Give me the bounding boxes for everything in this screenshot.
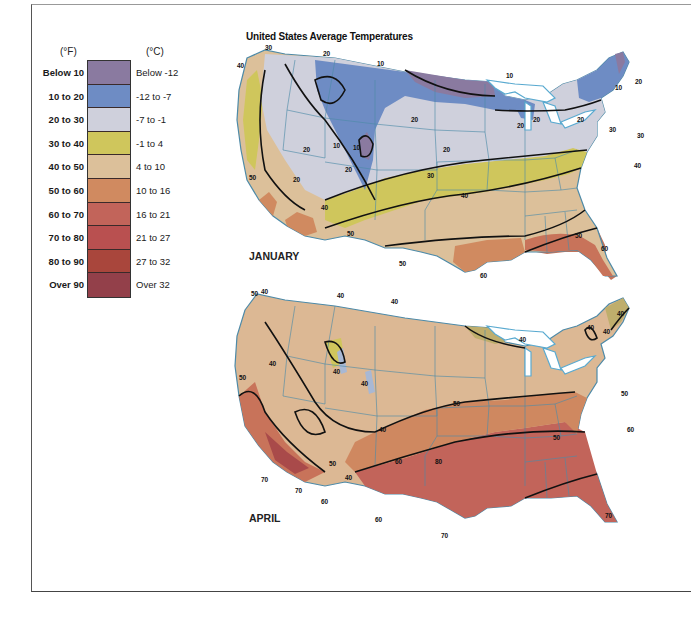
svg-text:80: 80 (435, 458, 443, 465)
svg-text:10: 10 (377, 60, 385, 67)
svg-text:20: 20 (443, 146, 451, 153)
svg-text:40: 40 (379, 426, 387, 433)
legend-fahrenheit-label: 70 to 80 (49, 232, 84, 243)
svg-text:40: 40 (461, 192, 469, 199)
svg-text:20: 20 (517, 122, 525, 129)
legend-celsius-label: 4 to 10 (136, 161, 165, 172)
april-label: APRIL (249, 512, 281, 524)
svg-text:40: 40 (391, 298, 399, 305)
svg-text:40: 40 (321, 204, 329, 211)
legend-fahrenheit-label: 30 to 40 (49, 138, 84, 149)
svg-text:30: 30 (427, 172, 435, 179)
january-map: 30 20 10 40 10 20 20 20 10 20 30 30 20 1… (225, 40, 675, 280)
legend-fahrenheit-label: 50 to 60 (49, 185, 84, 196)
svg-text:50: 50 (251, 290, 259, 297)
svg-text:40: 40 (617, 310, 625, 317)
svg-text:40: 40 (519, 336, 527, 343)
legend-fahrenheit-label: 10 to 20 (49, 91, 84, 102)
legend-color-bar (87, 60, 131, 298)
svg-text:40: 40 (603, 328, 611, 335)
svg-text:50: 50 (249, 174, 257, 181)
legend-swatch (88, 203, 130, 227)
svg-text:50: 50 (399, 260, 407, 267)
january-label: JANUARY (249, 250, 299, 262)
svg-text:70: 70 (441, 532, 449, 539)
legend-swatch (88, 132, 130, 156)
svg-text:30: 30 (609, 126, 617, 133)
legend-celsius-label: -7 to -1 (136, 114, 166, 125)
svg-text:20: 20 (323, 50, 331, 57)
svg-text:40: 40 (333, 368, 341, 375)
legend-fahrenheit-label: 20 to 30 (49, 114, 84, 125)
legend-swatch (88, 61, 130, 85)
svg-text:20: 20 (411, 116, 419, 123)
svg-text:50: 50 (553, 434, 561, 441)
legend-celsius-label: 21 to 27 (136, 232, 170, 243)
legend-celsius-label: -1 to 4 (136, 138, 163, 149)
svg-text:30: 30 (265, 44, 273, 51)
svg-text:30: 30 (637, 132, 645, 139)
svg-text:60: 60 (375, 516, 383, 523)
svg-text:60: 60 (321, 498, 329, 505)
april-map: 50 40 40 40 40 40 40 40 50 40 40 40 40 5… (225, 282, 675, 582)
legend-celsius-label: 16 to 21 (136, 209, 170, 220)
legend-celsius-label: -12 to -7 (136, 91, 171, 102)
legend-fahrenheit-label: Below 10 (43, 67, 84, 78)
svg-text:60: 60 (480, 272, 488, 279)
legend-celsius-label: 27 to 32 (136, 256, 170, 267)
legend-celsius-label: Below -12 (136, 67, 178, 78)
legend-swatch (88, 250, 130, 274)
svg-text:60: 60 (395, 458, 403, 465)
svg-text:40: 40 (345, 474, 353, 481)
svg-text:50: 50 (621, 390, 629, 397)
legend-fahrenheit-label: 80 to 90 (49, 256, 84, 267)
legend-swatch (88, 85, 130, 109)
svg-text:40: 40 (361, 380, 369, 387)
legend-fahrenheit-label: 40 to 50 (49, 161, 84, 172)
svg-text:20: 20 (303, 146, 311, 153)
legend-swatch (88, 226, 130, 250)
svg-text:10: 10 (615, 84, 623, 91)
svg-text:50: 50 (347, 230, 355, 237)
legend-unit-fahrenheit: (°F) (60, 46, 77, 57)
svg-text:20: 20 (577, 116, 585, 123)
legend-swatch (88, 155, 130, 179)
svg-text:20: 20 (345, 166, 353, 173)
svg-text:40: 40 (634, 162, 642, 169)
svg-text:70: 70 (605, 512, 613, 519)
svg-text:10: 10 (506, 72, 514, 79)
legend-celsius-label: Over 32 (136, 279, 170, 290)
legend-celsius-label: 10 to 16 (136, 185, 170, 196)
legend-unit-celsius: (°C) (146, 46, 164, 57)
svg-text:40: 40 (337, 292, 345, 299)
svg-text:20: 20 (533, 116, 541, 123)
svg-text:70: 70 (295, 487, 303, 494)
legend-swatch (88, 108, 130, 132)
svg-text:40: 40 (269, 360, 277, 367)
svg-text:50: 50 (329, 460, 337, 467)
svg-text:50: 50 (239, 374, 247, 381)
svg-text:50: 50 (575, 232, 583, 239)
svg-text:40: 40 (237, 62, 245, 69)
legend-swatch (88, 273, 130, 297)
legend-fahrenheit-label: 60 to 70 (49, 209, 84, 220)
svg-text:20: 20 (293, 176, 301, 183)
svg-text:10: 10 (333, 142, 341, 149)
svg-text:40: 40 (261, 288, 269, 295)
svg-text:40: 40 (587, 324, 595, 331)
legend-swatch (88, 179, 130, 203)
legend-fahrenheit-label: Over 90 (49, 279, 84, 290)
svg-text:60: 60 (601, 245, 609, 252)
svg-text:70: 70 (261, 476, 269, 483)
svg-text:60: 60 (627, 426, 635, 433)
svg-text:50: 50 (453, 400, 461, 407)
svg-text:20: 20 (635, 78, 643, 85)
svg-text:10: 10 (353, 144, 361, 151)
